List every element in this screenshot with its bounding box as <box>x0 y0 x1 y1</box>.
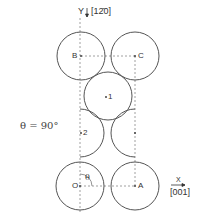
label-site-2: 2 <box>83 129 87 137</box>
label-c: C <box>138 52 144 60</box>
y-axis-arrow-icon <box>86 8 89 17</box>
condition-label: θ = 90° <box>20 121 58 131</box>
label-site-1: 1 <box>108 93 112 101</box>
label-o: O <box>72 182 78 190</box>
atom-center-dots <box>79 55 136 187</box>
label-theta: θ <box>85 174 90 182</box>
atom-packing-diagram <box>0 0 199 218</box>
y-axis-letter: Y <box>78 7 84 16</box>
x-axis-direction: [001] <box>170 188 190 197</box>
x-axis-letter: X <box>176 176 181 183</box>
label-b: B <box>72 52 77 60</box>
label-a: A <box>138 182 143 190</box>
unit-cell-dashed-lines <box>80 18 135 212</box>
y-axis-direction: [12̄0] <box>91 7 111 16</box>
